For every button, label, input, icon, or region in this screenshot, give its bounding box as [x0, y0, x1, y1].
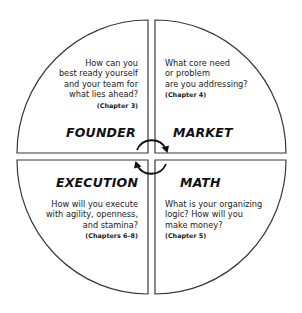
- founder-question: How can you best ready yourself and your…: [18, 58, 138, 100]
- founder-title: FOUNDER: [66, 125, 136, 140]
- math-question-block: What is your organizing logic? How will …: [165, 199, 280, 242]
- execution-chapter: (Chapters 6–8): [13, 231, 138, 241]
- math-chapter: (Chapter 5): [165, 231, 280, 241]
- execution-question-block: How will you execute with agility, openn…: [13, 199, 138, 242]
- market-title: MARKET: [173, 125, 233, 140]
- market-chapter: (Chapter 4): [165, 90, 275, 100]
- execution-question: How will you execute with agility, openn…: [13, 199, 138, 230]
- founder-chapter: (Chapter 3): [18, 101, 138, 111]
- founder-question-block: How can you best ready yourself and your…: [18, 58, 138, 111]
- math-question: What is your organizing logic? How will …: [165, 199, 280, 230]
- market-question: What core need or problem are you addres…: [165, 58, 275, 89]
- execution-title: EXECUTION: [56, 175, 138, 190]
- cycle-arrow-top-icon: [137, 140, 169, 153]
- market-question-block: What core need or problem are you addres…: [165, 58, 275, 101]
- math-title: MATH: [180, 175, 221, 190]
- quadrant-circle-frame: [0, 0, 302, 313]
- cycle-arrow-bottom-icon: [134, 161, 166, 174]
